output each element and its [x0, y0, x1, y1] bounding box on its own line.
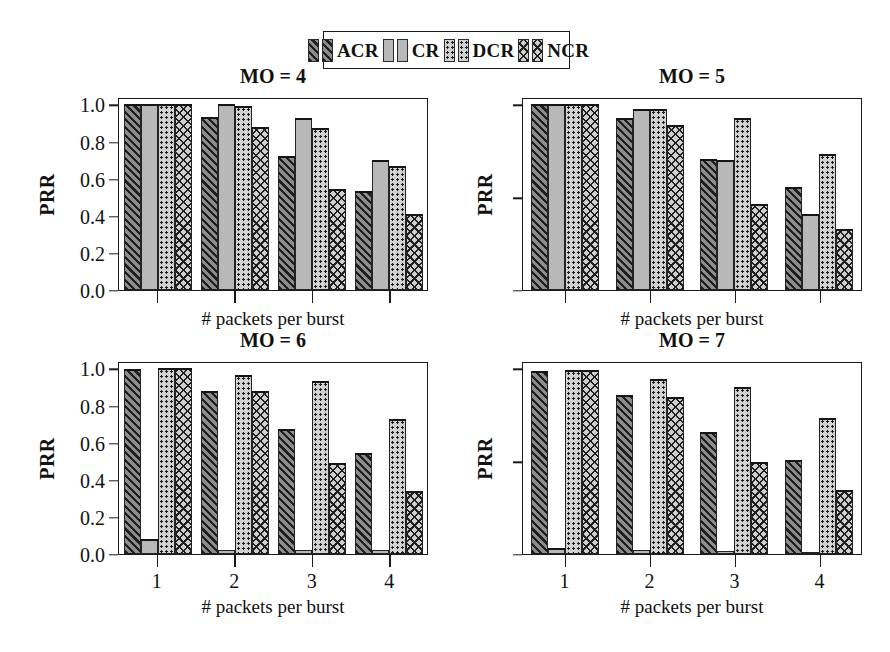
bar-cr-2: [218, 550, 235, 554]
x-tick-label: 3: [730, 571, 740, 591]
bar-ncr-3: [329, 189, 346, 290]
x-tick: [565, 555, 566, 567]
y-tick: [513, 290, 522, 291]
x-tick: [234, 555, 235, 567]
bar-acr-1: [531, 104, 548, 290]
bar-ncr-1: [582, 370, 599, 554]
bar-cap: [312, 381, 329, 383]
y-tick: [109, 105, 118, 106]
bar-cr-2: [218, 104, 235, 290]
panel-title: MO = 5: [522, 66, 862, 86]
bar-cap: [531, 104, 548, 106]
bar-group-4: [777, 99, 862, 290]
y-tick: [109, 216, 118, 217]
x-tick: [650, 555, 651, 567]
bar-cr-1: [548, 548, 565, 554]
bar-cap: [667, 125, 684, 127]
bar-cap: [278, 429, 295, 431]
bar-dcr-3: [734, 387, 751, 554]
bar-cap: [582, 104, 599, 106]
bar-cap: [819, 154, 836, 156]
x-tick: [312, 291, 313, 303]
legend-swatch-box: [397, 39, 408, 62]
bar-cap: [218, 104, 235, 106]
y-tick: [513, 105, 522, 106]
x-tick: [389, 291, 390, 303]
bar-ncr-1: [582, 104, 599, 290]
bar-cr-1: [141, 539, 158, 554]
bar-dcr-3: [312, 128, 329, 290]
bar-cap: [531, 371, 548, 373]
bar-acr-2: [201, 391, 218, 554]
bar-cap: [700, 432, 717, 434]
y-tick-label: 0.6: [80, 170, 105, 190]
bar-dcr-4: [819, 418, 836, 554]
bar-ncr-4: [406, 491, 423, 554]
legend-swatch-box: [383, 39, 394, 62]
plot-area: [118, 98, 428, 291]
y-tick: [109, 406, 118, 407]
panel-mo-6: MO = 60.00.20.40.60.81.0PRR1234# packets…: [22, 330, 440, 625]
legend: ACRCRDCRNCR: [323, 31, 570, 69]
bar-group-2: [196, 363, 273, 554]
bar-group-3: [273, 363, 350, 554]
y-tick-label: 0.4: [80, 207, 105, 227]
y-tick: [513, 369, 522, 370]
y-tick: [109, 179, 118, 180]
bar-acr-2: [201, 117, 218, 291]
bar-group-4: [777, 363, 862, 554]
bar-dcr-1: [565, 104, 582, 290]
x-tick: [312, 555, 313, 567]
x-tick-label: 3: [307, 571, 317, 591]
bar-ncr-2: [667, 397, 684, 554]
legend-swatch-acr: [308, 39, 333, 62]
x-tick: [234, 291, 235, 303]
legend-swatch-box: [518, 39, 529, 62]
bar-acr-1: [124, 104, 141, 290]
bar-cap: [650, 109, 667, 111]
bar-acr-3: [700, 159, 717, 290]
legend-swatch-box: [322, 39, 333, 62]
legend-swatch-cr: [383, 39, 408, 62]
bar-cr-4: [372, 550, 389, 554]
bar-acr-4: [785, 187, 802, 290]
bar-ncr-4: [836, 490, 853, 554]
bar-cap: [329, 189, 346, 191]
bar-cr-3: [295, 550, 312, 554]
panel-mo-5: MO = 5PRR# packets per burst: [452, 66, 874, 361]
y-tick: [109, 517, 118, 518]
x-tick: [565, 291, 566, 303]
panel-mo-7: MO = 7PRR1234# packets per burst: [452, 330, 874, 625]
bar-acr-4: [355, 191, 372, 290]
bar-dcr-3: [312, 381, 329, 554]
bar-cap: [295, 118, 312, 120]
bar-cr-1: [548, 104, 565, 290]
legend-swatch-box: [308, 39, 319, 62]
bar-dcr-2: [235, 375, 252, 554]
x-tick-label: 2: [229, 571, 239, 591]
bar-ncr-2: [252, 391, 269, 554]
bar-cr-3: [717, 551, 734, 554]
bar-cap: [785, 460, 802, 462]
bar-ncr-4: [836, 229, 853, 290]
bar-cap: [124, 369, 141, 371]
bar-cap: [158, 368, 175, 370]
bar-container: [523, 363, 861, 554]
bar-acr-3: [700, 432, 717, 554]
bar-cap: [235, 106, 252, 108]
x-tick-label: 2: [645, 571, 655, 591]
x-tick: [389, 555, 390, 567]
y-tick-label: 0.4: [80, 471, 105, 491]
bar-cap: [717, 160, 734, 162]
panel-title: MO = 4: [118, 66, 428, 86]
y-tick: [109, 443, 118, 444]
legend-item-dcr: DCR: [440, 39, 515, 62]
y-tick-label: 0.8: [80, 397, 105, 417]
bar-cr-1: [141, 104, 158, 290]
bar-cap: [700, 159, 717, 161]
x-tick: [157, 555, 158, 567]
bar-cap: [252, 127, 269, 129]
bar-group-2: [608, 99, 693, 290]
bar-group-3: [692, 363, 777, 554]
y-axis-title: PRR: [474, 169, 497, 219]
